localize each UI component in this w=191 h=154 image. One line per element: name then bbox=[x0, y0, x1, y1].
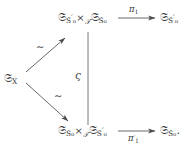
node-bottom-target-glyph: 𝔖 bbox=[160, 123, 168, 137]
node-source: 𝔖X bbox=[4, 73, 17, 86]
label-vertical-sigma: ς bbox=[75, 70, 81, 81]
label-lower-diagonal-tilde: ∼ bbox=[54, 91, 62, 101]
node-source-subscript: X bbox=[12, 77, 17, 86]
node-top-target-subsub: o bbox=[175, 18, 178, 24]
node-bottom-target: 𝔖So. bbox=[160, 125, 180, 138]
fiber-product-operator-bottom: × bbox=[74, 125, 82, 136]
node-source-glyph: 𝔖 bbox=[4, 71, 12, 85]
node-top-product-right-glyph: 𝔖 bbox=[91, 10, 99, 24]
edge-lower-diagonal bbox=[26, 83, 68, 121]
node-bottom-product: 𝔖So×𝒯𝔖S′o bbox=[58, 125, 107, 138]
node-bottom-product-right-glyph: 𝔖 bbox=[89, 123, 97, 137]
edge-upper-diagonal bbox=[26, 38, 65, 72]
label-pi-prime-subscript: 1 bbox=[135, 137, 139, 144]
label-upper-diagonal-tilde: ∼ bbox=[36, 42, 44, 52]
label-pi-subscript: 1 bbox=[135, 8, 139, 15]
node-top-target-glyph: 𝔖 bbox=[160, 10, 168, 24]
label-bottom-horizontal-pi: π′1 bbox=[128, 134, 139, 144]
commutative-diagram: 𝔖X 𝔖S′o×𝒯𝔖So 𝔖So×𝒯𝔖S′o 𝔖S′o 𝔖So. ∼ ∼ ς π… bbox=[0, 0, 191, 154]
node-bottom-product-right-subsub: o bbox=[104, 131, 107, 137]
node-bottom-target-period: . bbox=[176, 124, 180, 137]
node-top-product-left-glyph: 𝔖 bbox=[58, 10, 66, 24]
fiber-product-operator: × bbox=[76, 12, 84, 23]
node-bottom-product-left-glyph: 𝔖 bbox=[58, 123, 66, 137]
node-top-product-right-subsub: o bbox=[104, 18, 107, 24]
label-top-horizontal-pi: π1 bbox=[129, 5, 139, 15]
node-top-product: 𝔖S′o×𝒯𝔖So bbox=[58, 12, 107, 25]
node-top-target: 𝔖S′o bbox=[160, 12, 178, 25]
